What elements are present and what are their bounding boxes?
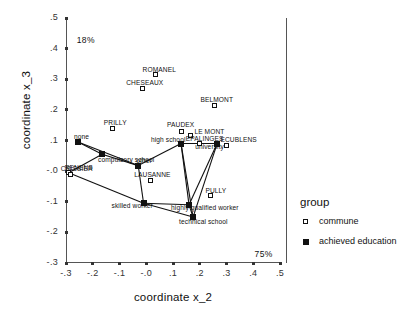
point-open-square [110, 126, 115, 131]
point-open-square [208, 193, 213, 198]
point-label: skilled worker [112, 202, 153, 209]
point-label: ROMANEL [143, 66, 176, 73]
point-label: university [195, 143, 224, 150]
point-label: LAUSANNE [134, 171, 170, 178]
point-label: CHESEAUX [126, 79, 163, 86]
point-open-square [68, 172, 73, 177]
point-open-square [212, 103, 217, 108]
point-label: other [136, 157, 152, 164]
connector-line [181, 144, 189, 205]
point-label: technical school [179, 218, 228, 225]
point-label: BELMONT [200, 96, 233, 103]
legend-item-label: commune [319, 216, 359, 226]
inertia-x-axis: 75% [255, 249, 273, 259]
legend-title: group [300, 196, 329, 208]
legend-item-label: achieved education [319, 236, 397, 246]
point-open-square [153, 72, 158, 77]
point-open-square [148, 178, 153, 183]
legend-swatch-open-square-icon [303, 219, 308, 224]
point-label: CRISSIER [61, 165, 93, 172]
point-label: PRILLY [104, 119, 127, 126]
point-label: PAUDEX [167, 121, 194, 128]
point-label: PULLY [205, 187, 226, 194]
point-label: ECUBLENS [221, 136, 257, 143]
point-open-square [179, 129, 184, 134]
point-label: highly qualified worker [171, 204, 239, 211]
legend-swatch-filled-square-icon [303, 239, 309, 245]
connector-line [69, 173, 144, 204]
point-open-square [224, 143, 229, 148]
point-open-square [140, 86, 145, 91]
point-label: none [74, 133, 89, 140]
inertia-y-axis: 18% [77, 35, 95, 45]
point-label: high school [151, 136, 185, 143]
